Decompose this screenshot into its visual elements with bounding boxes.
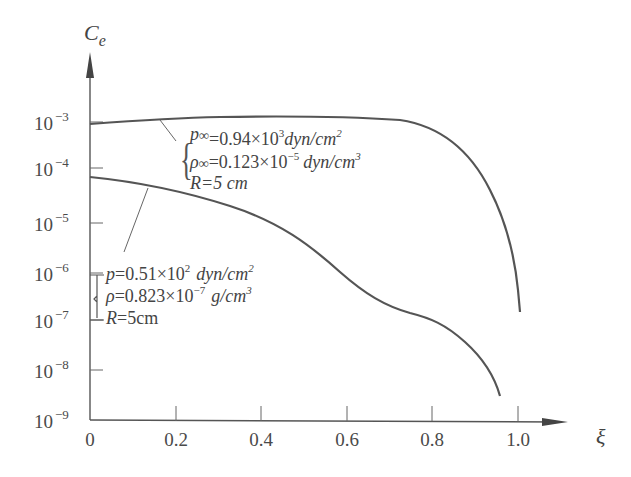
x-tick-label: 0.2 bbox=[164, 429, 188, 450]
annotation-0-line-1: ρ∞=0.123×10−5dyn/cm3 bbox=[189, 150, 361, 172]
y-tick-label: 10−5 bbox=[34, 210, 69, 235]
y-axis: Ce bbox=[84, 20, 106, 420]
annotation-series-0: { p∞=0.94×103dyn/cm2 ρ∞=0.123×10−5dyn/cm… bbox=[180, 124, 361, 193]
annotation-1-line-1: ρ=0.823×10−7g/cm3 bbox=[105, 284, 252, 306]
x-ticks: 00.20.40.60.81.0 bbox=[85, 406, 530, 450]
x-axis-title: ξ bbox=[596, 424, 606, 449]
y-tick-label: 10−3 bbox=[34, 109, 69, 134]
y-axis-title: Ce bbox=[84, 20, 106, 49]
x-tick-label: 0.6 bbox=[335, 429, 359, 450]
y-tick-label: 10−8 bbox=[34, 357, 69, 382]
annotation-0-line-0: p∞=0.94×103dyn/cm2 bbox=[188, 124, 342, 149]
chart: Ce ξ 10−310−410−510−610−710−810−9 00.20.… bbox=[0, 0, 631, 477]
x-tick-label: 0.4 bbox=[249, 429, 273, 450]
series-0-leader-line bbox=[160, 120, 176, 141]
annotation-1-line-0: p=0.51×102dyn/cm2 bbox=[104, 262, 254, 284]
y-tick-label: 10−7 bbox=[34, 307, 69, 332]
annotation-series-1: p=0.51×102dyn/cm2 ρ=0.823×10−7g/cm3 R=5c… bbox=[90, 262, 254, 328]
y-axis-arrow-icon bbox=[86, 52, 94, 78]
x-tick-label: 0.8 bbox=[420, 429, 444, 450]
y-tick-label: 10−9 bbox=[34, 407, 69, 432]
y-ticks: 10−310−410−510−610−710−810−9 bbox=[34, 109, 103, 432]
x-tick-label: 0 bbox=[85, 429, 95, 450]
x-axis-arrow-icon bbox=[542, 418, 568, 426]
annotation-1-bracket bbox=[90, 275, 104, 320]
y-tick-label: 10−4 bbox=[34, 155, 69, 180]
y-tick-label: 10−6 bbox=[34, 260, 69, 285]
x-tick-label: 1.0 bbox=[506, 429, 530, 450]
annotation-1-line-2: R=5cm bbox=[105, 308, 158, 328]
annotation-0-line-2: R=5 cm bbox=[189, 173, 248, 193]
series-1-leader-line bbox=[124, 188, 148, 252]
